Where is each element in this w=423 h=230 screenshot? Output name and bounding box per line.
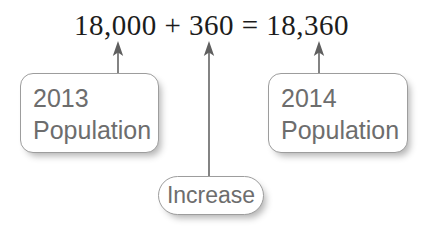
callout-2014-line2: Population — [281, 114, 407, 146]
callout-2014-line1: 2014 — [281, 82, 407, 114]
callout-increase-label: Increase — [159, 177, 263, 213]
arrow-increase-to-360 — [196, 40, 222, 178]
arrow-2013-to-18000 — [105, 40, 131, 76]
equation-text: 18,000 + 360 = 18,360 — [0, 8, 423, 42]
callout-2013-line1: 2013 — [33, 82, 158, 114]
diagram-canvas: 18,000 + 360 = 18,360 2013 Population 20… — [0, 0, 423, 230]
arrow-2014-to-18360 — [306, 40, 332, 76]
callout-2014-population: 2014 Population — [268, 73, 408, 153]
callout-2013-population: 2013 Population — [20, 73, 159, 153]
callout-2013-line2: Population — [33, 114, 158, 146]
callout-increase: Increase — [158, 176, 264, 215]
